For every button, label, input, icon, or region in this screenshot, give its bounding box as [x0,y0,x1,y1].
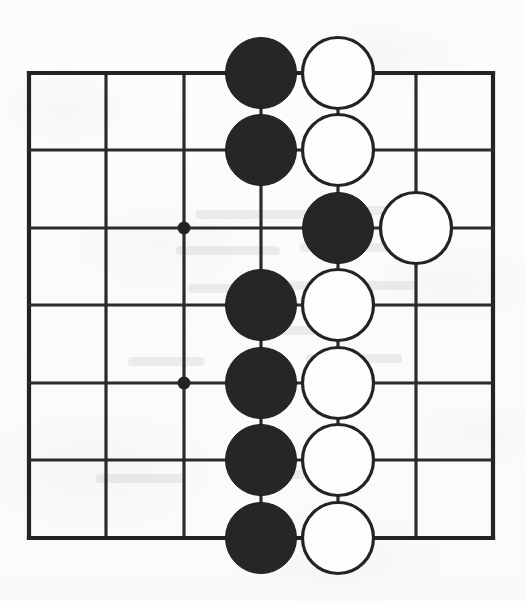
stone-black-c4r4 [226,270,297,341]
stone-black-c4r7 [226,503,297,574]
stone-white-c5r5 [303,348,374,419]
stone-black-c4r2 [226,115,297,186]
stone-white-c5r4 [303,270,374,341]
go-board-svg [0,0,525,601]
stone-black-c4r5 [226,348,297,419]
stone-white-c6r3 [381,193,452,264]
star-point-1 [178,222,191,235]
stone-white-c5r7 [303,503,374,574]
stone-black-c4r6 [226,425,297,496]
stone-white-c5r1 [303,38,374,109]
stone-white-c5r2 [303,115,374,186]
stone-black-c5r3 [303,193,374,264]
star-point-2 [178,377,191,390]
stone-black-c4r1 [226,38,297,109]
go-board-diagram [0,0,525,601]
stone-white-c5r6 [303,425,374,496]
